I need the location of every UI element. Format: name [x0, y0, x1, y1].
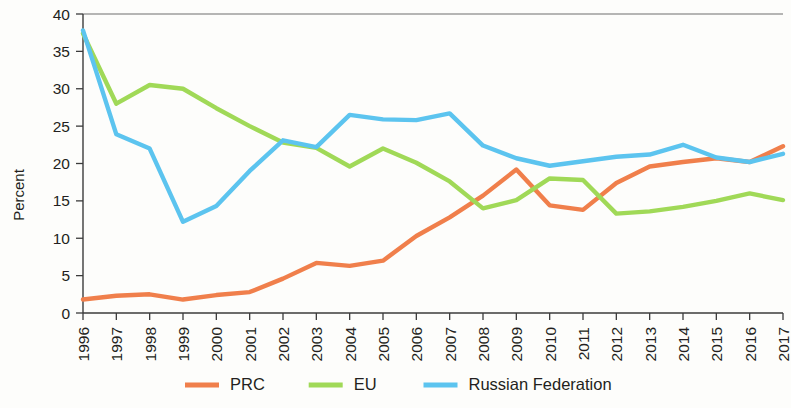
- x-tick-label: 2004: [342, 327, 359, 362]
- x-tick-label: 2005: [375, 327, 392, 361]
- data-series-group: [83, 30, 783, 299]
- x-tick-label: 2008: [475, 327, 492, 361]
- x-tick-label: 2006: [408, 327, 425, 361]
- x-tick-label: 2015: [708, 327, 725, 361]
- y-axis-ticks: 0510152025303540: [53, 6, 83, 322]
- series-line-russian-federation: [83, 30, 783, 221]
- legend-label-russian-federation: Russian Federation: [469, 375, 612, 393]
- y-tick-label: 20: [53, 155, 71, 172]
- x-tick-label: 2003: [308, 327, 325, 361]
- y-tick-label: 0: [61, 305, 70, 322]
- line-chart: 0510152025303540 19961997199819992000200…: [0, 0, 791, 408]
- x-tick-label: 1998: [142, 327, 159, 361]
- y-tick-label: 30: [53, 80, 71, 97]
- chart-legend: PRCEURussian Federation: [185, 375, 612, 393]
- y-axis-title: Percent: [10, 168, 27, 221]
- x-tick-label: 2014: [675, 327, 692, 362]
- y-tick-label: 15: [53, 192, 70, 209]
- series-line-eu: [83, 33, 783, 213]
- x-tick-label: 1996: [75, 327, 92, 361]
- y-tick-label: 40: [53, 6, 71, 23]
- x-tick-label: 2013: [642, 327, 659, 361]
- y-tick-label: 5: [61, 267, 70, 284]
- x-tick-label: 2009: [508, 327, 525, 361]
- y-tick-label: 35: [53, 43, 70, 60]
- x-tick-label: 1999: [175, 327, 192, 361]
- y-tick-label: 25: [53, 118, 70, 135]
- chart-figure: 0510152025303540 19961997199819992000200…: [0, 0, 791, 408]
- series-line-prc: [83, 146, 783, 299]
- x-tick-label: 2012: [608, 327, 625, 361]
- y-tick-label: 10: [53, 230, 71, 247]
- x-axis-ticks: 1996199719981999200020012002200320042005…: [75, 313, 791, 361]
- x-tick-label: 2007: [442, 327, 459, 361]
- legend-label-prc: PRC: [230, 375, 265, 393]
- x-tick-label: 2017: [775, 327, 791, 361]
- legend-label-eu: EU: [354, 375, 377, 393]
- x-tick-label: 1997: [108, 327, 125, 361]
- x-tick-label: 2002: [275, 327, 292, 361]
- x-tick-label: 2010: [542, 327, 559, 362]
- x-tick-label: 2000: [208, 327, 225, 362]
- x-tick-label: 2016: [742, 327, 759, 361]
- x-tick-label: 2001: [242, 327, 259, 361]
- x-tick-label: 2011: [575, 327, 592, 360]
